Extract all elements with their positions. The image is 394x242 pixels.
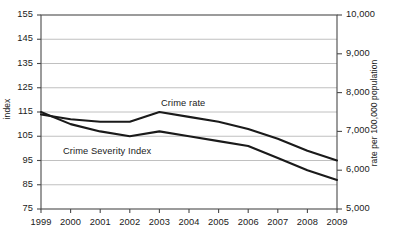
right-tick-label: 5,000 [346,203,390,213]
left-tick-label: 145 [7,33,33,43]
right-tick-label: 7,000 [346,125,390,135]
series-label-crime-rate: Crime rate [161,98,205,108]
right-tick-label: 10,000 [346,9,390,19]
left-tick-label: 95 [7,155,33,165]
right-tick-label: 9,000 [346,48,390,58]
left-tick-label: 115 [7,106,33,116]
left-tick-label: 155 [7,9,33,19]
left-tick-label: 75 [7,203,33,213]
right-tick-label: 6,000 [346,164,390,174]
crime-statistics-line-chart: index rate per 100,000 population 155145… [0,0,394,242]
series-label-crime-severity-index: Crime Severity Index [63,146,151,156]
gridlines [41,39,337,185]
left-tick-label: 85 [7,179,33,189]
left-tick-label: 105 [7,130,33,140]
left-tick-label: 135 [7,58,33,68]
axis-ticks [37,15,342,213]
right-tick-label: 8,000 [346,87,390,97]
x-tick-label: 2009 [320,217,354,227]
left-tick-label: 125 [7,82,33,92]
plot-area [0,0,394,242]
